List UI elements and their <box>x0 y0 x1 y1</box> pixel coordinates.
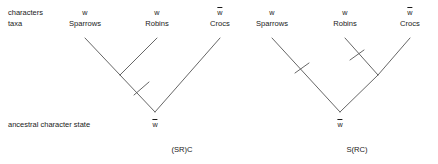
character-state-text: w <box>342 8 347 17</box>
taxon-label-crocs-left: Crocs <box>210 19 230 28</box>
branch-crocs-left <box>155 38 220 112</box>
change-mark-right-1 <box>295 63 309 73</box>
phylogeny-figure: characters taxa ancestral character stat… <box>0 0 438 164</box>
row-label-characters: characters <box>8 8 43 17</box>
character-state-text: w <box>217 8 222 17</box>
branch-robins-right <box>345 38 378 75</box>
character-state-crocs-right: w <box>407 8 412 17</box>
character-state-sparrows-right: w <box>269 8 274 17</box>
taxon-label-sparrows-left: Sparrows <box>69 19 101 28</box>
character-state-robins-right: w <box>342 8 347 17</box>
change-mark-left-1 <box>134 82 149 95</box>
branch-sr-node-to-root-left <box>120 75 155 112</box>
character-state-sparrows-left: w <box>82 8 87 17</box>
taxon-label-crocs-right: Crocs <box>400 19 420 28</box>
root-character-state-right: w <box>337 120 342 129</box>
branch-sparrows-right <box>272 38 340 112</box>
character-state-crocs-left: w <box>217 8 222 17</box>
taxon-label-robins-left: Robins <box>145 19 169 28</box>
left-tree-branches <box>85 38 220 112</box>
tree-caption-left: (SR)C <box>171 145 192 154</box>
taxon-label-robins-right: Robins <box>333 19 357 28</box>
root-character-state-left: w <box>152 120 157 129</box>
character-state-robins-left: w <box>154 8 159 17</box>
character-state-text: w <box>82 8 87 17</box>
character-state-text: w <box>154 8 159 17</box>
branch-sparrows-left <box>85 38 120 75</box>
root-state-text: w <box>337 120 342 129</box>
branch-robins-left <box>120 38 157 75</box>
branch-rc-node-to-root-right <box>340 75 378 112</box>
right-tree-branches <box>272 38 410 112</box>
row-label-taxa: taxa <box>8 19 22 28</box>
root-state-text: w <box>152 120 157 129</box>
character-state-text: w <box>407 8 412 17</box>
character-state-text: w <box>269 8 274 17</box>
taxon-label-sparrows-right: Sparrows <box>256 19 288 28</box>
row-label-ancestral-character-state: ancestral character state <box>8 120 90 129</box>
branch-crocs-right <box>378 38 410 75</box>
tree-caption-right: S(RC) <box>346 145 367 154</box>
